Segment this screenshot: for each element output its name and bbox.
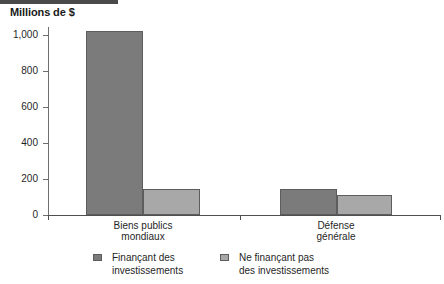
legend-label-ne-financant-pas: Ne finançant pas des investissements — [239, 251, 329, 277]
y-axis-tick-800: 800 — [43, 71, 48, 72]
x-axis-category-label-biens-publics: Biens publics mondiaux — [83, 220, 203, 242]
y-axis-tick-label-200: 200 — [21, 172, 38, 185]
y-axis-tick-label-400: 400 — [21, 136, 38, 149]
legend-item-financant[interactable]: Finançant des investissements — [93, 251, 208, 277]
y-axis-tick-600: 600 — [43, 107, 48, 108]
legend-swatch-dark-icon — [93, 254, 102, 261]
y-axis-tick-200: 200 — [43, 179, 48, 180]
chart-figure: Millions de $ 0 200 400 600 800 1,000 — [0, 0, 444, 284]
x-axis-tick-right — [440, 216, 441, 220]
y-axis-line — [48, 27, 49, 216]
bar-defense-financant — [280, 189, 337, 215]
plot-area: 0 200 400 600 800 1,000 Biens publics mo… — [48, 27, 441, 216]
bar-defense-ne-financant-pas — [337, 195, 392, 215]
page-edge-strip — [0, 0, 118, 4]
bar-biens-publics-ne-financant-pas — [143, 189, 200, 215]
x-axis-tick-left — [48, 216, 49, 220]
chart-title: Millions de $ — [10, 6, 75, 18]
x-axis-tick-middle — [240, 216, 241, 220]
y-axis-tick-label-0: 0 — [32, 208, 38, 221]
legend-label-financant: Finançant des investissements — [112, 251, 183, 277]
x-axis-category-label-defense: Défense générale — [276, 220, 396, 242]
y-axis-tick-label-600: 600 — [21, 100, 38, 113]
y-axis-tick-400: 400 — [43, 143, 48, 144]
y-axis-tick-label-800: 800 — [21, 64, 38, 77]
bar-biens-publics-financant — [86, 31, 143, 215]
y-axis-tick-1000: 1,000 — [43, 35, 48, 36]
legend-item-ne-financant-pas[interactable]: Ne finançant pas des investissements — [220, 251, 370, 277]
legend-swatch-light-icon — [220, 254, 229, 261]
y-axis-tick-label-1000: 1,000 — [13, 28, 38, 41]
x-axis-line — [48, 215, 441, 216]
